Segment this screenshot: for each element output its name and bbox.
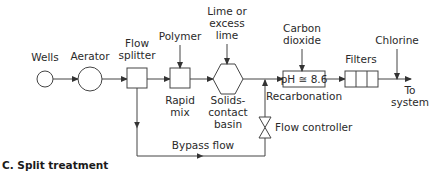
lime-label-3: lime — [216, 29, 239, 41]
carbon-dioxide-label-1: Carbon — [283, 22, 321, 34]
figure-caption: C. Split treatment — [2, 159, 108, 171]
basin-label-2: contact — [208, 106, 247, 118]
rapid-mix-label-1: Rapid — [165, 94, 195, 106]
aerator-circle — [78, 67, 102, 91]
filters-node: Filters — [345, 53, 378, 87]
aerator-node: Aerator — [70, 50, 110, 91]
carbon-dioxide-label-2: dioxide — [283, 34, 321, 46]
recarbonation-label: Recarbonation — [266, 90, 342, 102]
basin-hexagon — [213, 64, 243, 94]
ph-value: pH ≅ 8.6 — [281, 73, 328, 85]
lime-label-2: excess — [209, 17, 244, 29]
wells-label: Wells — [31, 51, 59, 63]
chlorine-label: Chlorine — [375, 34, 419, 46]
flow-splitter-label-1: Flow — [125, 37, 149, 49]
lime-label-1: Lime or — [207, 5, 247, 17]
flow-controller-valve: Flow controller — [259, 117, 353, 138]
rapid-mix-label-2: mix — [170, 106, 189, 118]
flow-splitter-node: Flow splitter — [119, 37, 157, 88]
rapid-mix-node: Rapid mix — [165, 68, 195, 118]
valve-top-triangle — [259, 117, 271, 128]
valve-bottom-triangle — [259, 128, 271, 139]
rapid-mix-box — [170, 68, 190, 88]
bypass-flow-path: Bypass flow — [137, 80, 265, 156]
bypass-flow-label: Bypass flow — [172, 139, 235, 151]
split-treatment-diagram: Wells Aerator Flow splitter Rapid mix Po… — [0, 0, 434, 173]
filters-box — [345, 71, 378, 87]
basin-label-1: Solids- — [211, 94, 246, 106]
flow-splitter-label-2: splitter — [119, 49, 157, 61]
to-system-label-2: system — [391, 96, 429, 108]
polymer-label: Polymer — [159, 30, 202, 42]
basin-label-3: basin — [214, 118, 242, 130]
flow-controller-label: Flow controller — [275, 121, 353, 133]
solids-contact-basin-node: Solids- contact basin — [208, 64, 247, 130]
wells-circle — [37, 71, 53, 87]
aerator-label: Aerator — [70, 50, 110, 62]
wells-node: Wells — [31, 51, 59, 87]
recarbonation-node: pH ≅ 8.6 Recarbonation — [266, 71, 342, 102]
filters-label: Filters — [345, 53, 376, 65]
to-system-label-1: To — [403, 84, 415, 96]
flow-splitter-box — [127, 68, 147, 88]
